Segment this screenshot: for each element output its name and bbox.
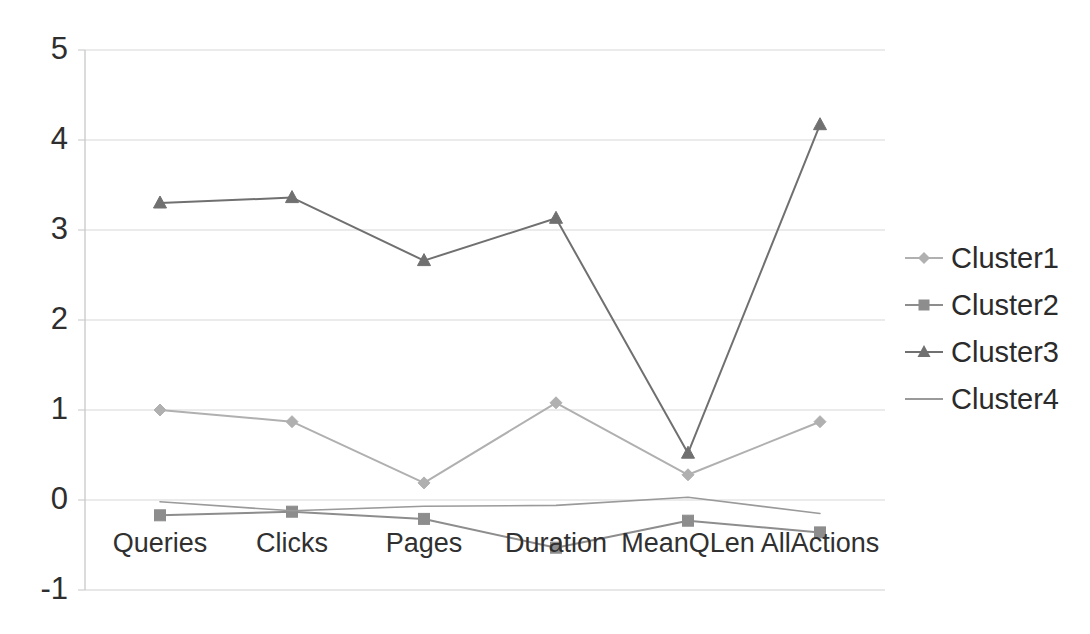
legend-item-cluster4[interactable]: Cluster4: [905, 383, 1059, 415]
series-line: [160, 403, 820, 483]
y-tick-label: -1: [40, 571, 68, 606]
line-chart: 543210-1 QueriesClicksPagesDurationMeanQ…: [0, 0, 1090, 634]
data-point-marker: [814, 416, 826, 428]
x-tick-label: Pages: [386, 528, 463, 558]
x-tick-label: Queries: [113, 528, 208, 558]
legend-marker: [919, 300, 930, 311]
series-cluster1: [154, 397, 826, 489]
x-tick-label: Clicks: [256, 528, 328, 558]
data-point-marker: [155, 510, 166, 521]
x-axis-labels: QueriesClicksPagesDurationMeanQLenAllAct…: [113, 528, 880, 558]
y-tick-label: 1: [51, 391, 68, 426]
y-tick-label: 4: [51, 121, 68, 156]
data-point-marker: [683, 515, 694, 526]
y-tick-label: 3: [51, 211, 68, 246]
y-axis: 543210-1: [40, 31, 68, 606]
data-point-marker: [814, 118, 827, 130]
x-tick-label: Duration: [505, 528, 607, 558]
data-point-marker: [682, 446, 695, 458]
data-point-marker: [286, 191, 299, 203]
legend-item-cluster2[interactable]: Cluster2: [905, 289, 1059, 321]
series-lines: [154, 118, 827, 554]
legend-item-cluster3[interactable]: Cluster3: [905, 336, 1059, 368]
chart-legend: Cluster1Cluster2Cluster3Cluster4: [905, 242, 1059, 415]
x-tick-label: AllActions: [761, 528, 880, 558]
legend-item-label: Cluster2: [951, 289, 1059, 321]
gridlines: [78, 50, 885, 590]
data-point-marker: [550, 211, 563, 223]
data-point-marker: [286, 416, 298, 428]
legend-item-label: Cluster1: [951, 242, 1059, 274]
y-tick-label: 5: [51, 31, 68, 66]
legend-item-label: Cluster4: [951, 383, 1059, 415]
data-point-marker: [418, 477, 430, 489]
data-point-marker: [550, 397, 562, 409]
series-cluster3: [154, 118, 827, 459]
legend-marker: [918, 252, 930, 264]
data-point-marker: [154, 404, 166, 416]
data-point-marker: [287, 506, 298, 517]
legend-item-label: Cluster3: [951, 336, 1059, 368]
data-point-marker: [419, 513, 430, 524]
legend-item-cluster1[interactable]: Cluster1: [905, 242, 1059, 274]
x-tick-label: MeanQLen: [621, 528, 755, 558]
y-tick-label: 2: [51, 301, 68, 336]
y-tick-label: 0: [51, 481, 68, 516]
chart-canvas: 543210-1 QueriesClicksPagesDurationMeanQ…: [0, 0, 1090, 634]
data-point-marker: [682, 469, 694, 481]
series-line: [160, 125, 820, 454]
